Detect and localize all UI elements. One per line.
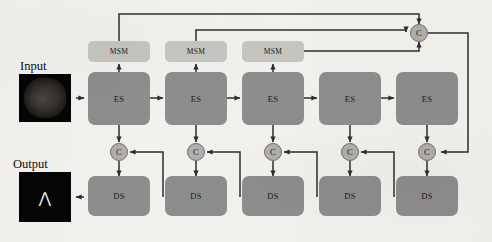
encoder-stage-4[interactable]: ES <box>319 72 381 125</box>
msm-block-2[interactable]: MSM <box>165 41 227 62</box>
msm-block-3[interactable]: MSM <box>242 41 304 62</box>
concat-node-5[interactable]: C <box>418 143 436 161</box>
encoder-stage-2[interactable]: ES <box>165 72 227 125</box>
encoder-stage-3[interactable]: ES <box>242 72 304 125</box>
concat-node-2[interactable]: C <box>187 143 205 161</box>
encoder-stage-1[interactable]: ES <box>88 72 150 125</box>
decoder-stage-3[interactable]: DS <box>242 176 304 216</box>
decoder-stage-5[interactable]: DS <box>396 176 458 216</box>
concat-node-4[interactable]: C <box>341 143 359 161</box>
concat-node-1[interactable]: C <box>110 143 128 161</box>
concat-node-top[interactable]: C <box>410 24 428 42</box>
output-image: ⋀ <box>19 172 71 222</box>
brain-mri-slice <box>24 77 67 118</box>
encoder-stage-5[interactable]: ES <box>396 72 458 125</box>
input-label: Input <box>20 59 46 74</box>
concat-node-3[interactable]: C <box>264 143 282 161</box>
decoder-stage-4[interactable]: DS <box>319 176 381 216</box>
input-image <box>19 74 71 122</box>
segmentation-mask: ⋀ <box>39 191 51 206</box>
decoder-stage-2[interactable]: DS <box>165 176 227 216</box>
output-label: Output <box>13 157 48 172</box>
decoder-stage-1[interactable]: DS <box>88 176 150 216</box>
figure-canvas: Input Output ⋀ MSM MSM MSM ES ES ES ES E… <box>0 0 492 242</box>
msm-block-1[interactable]: MSM <box>88 41 150 62</box>
